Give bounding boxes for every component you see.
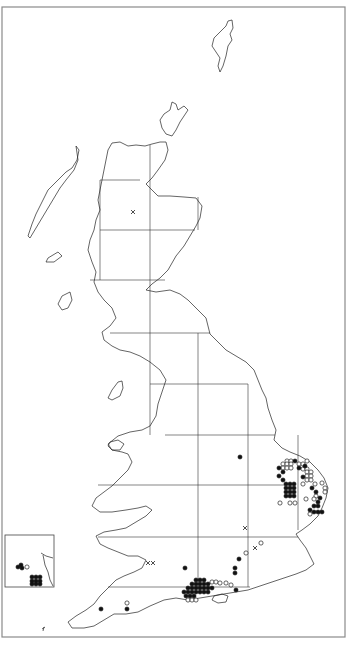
open-circle-record — [312, 497, 316, 501]
cross-record-marker — [131, 210, 135, 214]
orkney-outline — [160, 102, 188, 136]
filled-circle-record — [288, 490, 292, 494]
filled-circle-record — [202, 590, 206, 594]
filled-circle-record — [182, 590, 186, 594]
open-circle-record — [323, 490, 327, 494]
filled-circle-record — [316, 500, 320, 504]
filled-circle-record — [320, 510, 324, 514]
filled-circle-record — [34, 575, 38, 579]
filled-circle-record — [281, 470, 285, 474]
open-circle-record — [285, 466, 289, 470]
filled-circle-record — [16, 565, 20, 569]
filled-circle-record — [202, 578, 206, 582]
filled-circle-record — [38, 582, 42, 586]
filled-circle-record — [188, 594, 192, 598]
isle-of-man-outline — [108, 381, 123, 400]
filled-circle-record — [292, 482, 296, 486]
filled-circle-record — [99, 607, 103, 611]
filled-circle-record — [206, 590, 210, 594]
inset-frame — [5, 535, 54, 587]
open-circle-record — [285, 462, 289, 466]
filled-circle-record — [316, 510, 320, 514]
filled-circle-record — [297, 466, 301, 470]
filled-circle-record — [192, 594, 196, 598]
filled-circle-record — [190, 590, 194, 594]
filled-circle-record — [284, 490, 288, 494]
filled-circle-record — [198, 590, 202, 594]
filled-circle-record — [20, 566, 24, 570]
filled-circle-record — [186, 590, 190, 594]
open-circle-record — [308, 512, 312, 516]
open-circle-record — [278, 501, 282, 505]
coastline — [28, 20, 328, 631]
open-circle-record — [305, 478, 309, 482]
cross-record-marker — [151, 561, 155, 565]
filled-circle-record — [194, 578, 198, 582]
open-circle-record — [301, 482, 305, 486]
filled-circle-record — [233, 571, 237, 575]
filled-circle-record — [238, 455, 242, 459]
filled-circle-record — [237, 557, 241, 561]
open-circle-record — [320, 481, 324, 485]
filled-circle-record — [30, 575, 34, 579]
open-circle-record — [25, 565, 29, 569]
filled-circle-record — [206, 582, 210, 586]
filled-circle-record — [284, 482, 288, 486]
filled-circle-record — [292, 494, 296, 498]
filled-circle-record — [308, 508, 312, 512]
distribution-map — [0, 0, 350, 645]
filled-circle-record — [312, 504, 316, 508]
filled-circle-record — [38, 575, 42, 579]
open-circle-records — [125, 459, 327, 605]
open-circle-record — [305, 470, 309, 474]
filled-circle-record — [202, 586, 206, 590]
open-circle-record — [293, 501, 297, 505]
open-circle-record — [323, 486, 327, 490]
open-circle-record — [281, 466, 285, 470]
filled-circle-record — [234, 588, 238, 592]
filled-circle-record — [194, 590, 198, 594]
open-circle-record — [289, 466, 293, 470]
channel-islands-inset — [5, 535, 54, 587]
open-circle-record — [309, 478, 313, 482]
filled-circle-record — [210, 586, 214, 590]
filled-circle-record — [206, 586, 210, 590]
open-circle-record — [259, 541, 263, 545]
filled-circle-record — [194, 586, 198, 590]
filled-circle-record — [125, 607, 129, 611]
filled-circle-record — [292, 486, 296, 490]
open-circle-record — [309, 470, 313, 474]
filled-circle-record — [186, 586, 190, 590]
open-circle-record — [288, 501, 292, 505]
filled-circle-record — [284, 494, 288, 498]
filled-circle-record — [183, 566, 187, 570]
filled-circle-record — [314, 490, 318, 494]
filled-circle-record — [190, 582, 194, 586]
filled-circle-records — [99, 455, 324, 611]
open-circle-record — [224, 581, 228, 585]
filled-circle-record — [198, 578, 202, 582]
filled-circle-record — [190, 586, 194, 590]
filled-circle-record — [316, 504, 320, 508]
open-circle-record — [125, 601, 129, 605]
filled-circle-record — [233, 566, 237, 570]
filled-circle-record — [318, 496, 322, 500]
open-circle-record — [281, 462, 285, 466]
filled-circle-record — [284, 486, 288, 490]
shetland-outline — [212, 20, 233, 72]
open-circle-record — [186, 598, 190, 602]
open-circle-record — [313, 482, 317, 486]
inner-hebrides-outline — [46, 252, 72, 310]
grid-lines — [90, 145, 298, 587]
filled-circle-record — [202, 582, 206, 586]
open-circle-record — [305, 474, 309, 478]
filled-circle-record — [288, 482, 292, 486]
anglesey-outline — [108, 440, 124, 450]
filled-circle-record — [277, 474, 281, 478]
filled-circle-record — [198, 582, 202, 586]
isles-of-scilly-mark — [42, 627, 45, 631]
open-circle-record — [305, 459, 309, 463]
filled-circle-record — [292, 490, 296, 494]
outer-hebrides-outline — [28, 146, 79, 238]
filled-circle-record — [301, 475, 305, 479]
